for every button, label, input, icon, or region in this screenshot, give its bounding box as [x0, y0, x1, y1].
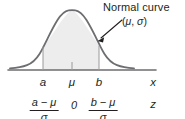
fraction-a-numerator: a − μ: [30, 96, 59, 111]
x-axis-label: x: [150, 77, 156, 89]
fraction-a: a − μ σ: [30, 96, 59, 119]
x-tick-label-mu: μ: [69, 77, 75, 89]
shaded-area-a-to-b: [43, 10, 99, 70]
x-tick-label-a: a: [40, 77, 46, 89]
z-value-b: b − μ σ: [89, 96, 118, 119]
x-tick-label-b: b: [96, 77, 102, 89]
callout-paren-close: ): [143, 15, 147, 27]
z-value-a: a − μ σ: [30, 96, 59, 119]
callout-params: (μ, σ): [122, 16, 147, 27]
fraction-b-denominator: σ: [89, 111, 118, 119]
pointer-arrow-icon: [98, 20, 123, 43]
callout-title: Normal curve: [103, 2, 170, 13]
fraction-b-numerator: b − μ: [89, 96, 118, 111]
normal-curve-figure: Normal curve (μ, σ) a μ b x z a − μ σ 0 …: [0, 0, 185, 119]
z-axis-label: z: [150, 99, 156, 111]
z-value-zero: 0: [71, 100, 77, 111]
fraction-b: b − μ σ: [89, 96, 118, 119]
fraction-a-denominator: σ: [30, 111, 59, 119]
